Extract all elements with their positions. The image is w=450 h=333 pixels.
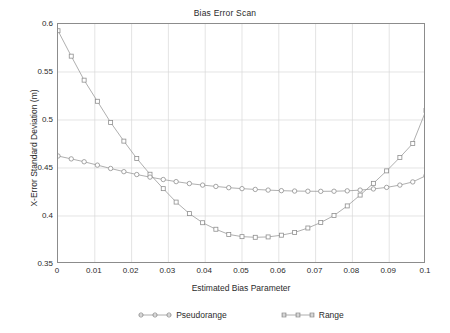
plot-area (57, 23, 425, 263)
legend-marker-circle-icon (138, 310, 172, 320)
legend-item-range[interactable]: Range (281, 310, 344, 320)
x-tick-label: 0.04 (196, 266, 212, 275)
x-axis-title: Estimated Bias Parameter (57, 283, 425, 293)
legend-label-pseudorange: Pseudorange (176, 310, 227, 320)
chart-root: Bias Error Scan 0.350.40.450.50.550.6 00… (0, 0, 450, 333)
chart-legend: Pseudorange Range (57, 306, 425, 324)
x-tick-label: 0.03 (160, 266, 176, 275)
x-tick-label: 0.05 (233, 266, 249, 275)
series-range (58, 29, 424, 240)
legend-marker-square-icon (281, 310, 315, 320)
x-tick-label: 0.02 (123, 266, 139, 275)
x-tick-label: 0 (55, 266, 59, 275)
plot-inner (58, 24, 424, 262)
x-tick-label: 0.01 (86, 266, 102, 275)
chart-canvas (58, 24, 424, 262)
x-tick-label: 0.06 (270, 266, 286, 275)
gridlines (58, 24, 424, 262)
x-tick-label: 0.07 (307, 266, 323, 275)
legend-label-range: Range (319, 310, 344, 320)
y-axis-title: X-Error Standard Deviation (m) (29, 28, 39, 268)
x-tick-label: 0.09 (380, 266, 396, 275)
legend-item-pseudorange[interactable]: Pseudorange (138, 310, 227, 320)
x-tick-label: 0.1 (419, 266, 430, 275)
x-tick-label: 0.08 (344, 266, 360, 275)
